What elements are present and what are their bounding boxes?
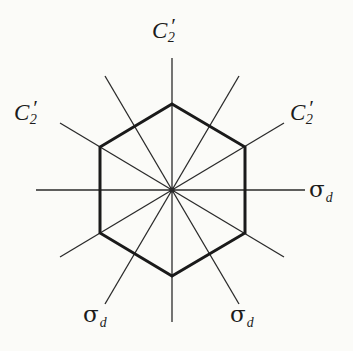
label-c2-prime-upper-right: C2′ bbox=[290, 98, 313, 127]
label-sigma-d-bottom-left-subscript: d bbox=[100, 315, 107, 330]
label-sigma-d-bottom-right-base: σ bbox=[230, 301, 246, 327]
center-point bbox=[169, 187, 174, 192]
label-sigma-d-bottom-right-subscript: d bbox=[247, 315, 254, 330]
label-sigma-d-right-subscript: d bbox=[326, 190, 333, 205]
label-c2-prime-upper-right-prime: ′ bbox=[308, 96, 313, 120]
symmetry-diagram-figure: C2′ C2′ C2′ σd σd σd bbox=[0, 0, 353, 351]
symmetry-diagram-canvas bbox=[0, 0, 353, 351]
label-c2-prime-upper-right-base: C bbox=[290, 100, 305, 125]
label-sigma-d-bottom-left: σd bbox=[83, 303, 107, 329]
label-sigma-d-right: σd bbox=[309, 178, 333, 204]
label-c2-prime-upper-left: C2′ bbox=[14, 98, 37, 127]
label-c2-prime-top-prime: ′ bbox=[170, 14, 175, 38]
label-sigma-d-bottom-left-base: σ bbox=[83, 301, 99, 327]
label-c2-prime-top-base: C bbox=[152, 18, 167, 43]
label-sigma-d-right-base: σ bbox=[309, 176, 325, 202]
label-sigma-d-bottom-right: σd bbox=[230, 303, 254, 329]
label-c2-prime-top: C2′ bbox=[152, 16, 175, 45]
label-c2-prime-upper-left-prime: ′ bbox=[32, 96, 37, 120]
label-c2-prime-upper-left-base: C bbox=[14, 100, 29, 125]
